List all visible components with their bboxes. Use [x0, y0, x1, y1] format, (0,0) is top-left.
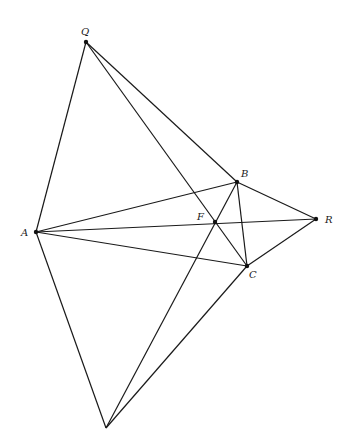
segment-qa	[36, 42, 86, 232]
label-a: A	[20, 227, 28, 238]
point-b	[235, 180, 239, 184]
label-c: C	[249, 269, 257, 280]
segment-br	[237, 182, 316, 219]
segment-ap	[36, 232, 106, 428]
point-f	[213, 220, 217, 224]
geometry-diagram: Q A B C R F	[0, 0, 358, 437]
point-r	[314, 217, 318, 221]
point-q	[84, 40, 88, 44]
label-f: F	[196, 211, 205, 222]
point-c	[245, 264, 249, 268]
segment-bp	[106, 182, 237, 428]
label-q: Q	[81, 26, 89, 37]
label-b: B	[240, 168, 248, 179]
point-labels: Q A B C R F	[20, 26, 333, 280]
segment-cp	[106, 266, 247, 428]
segments	[36, 42, 316, 428]
label-r: R	[324, 214, 333, 225]
points	[34, 40, 318, 268]
segment-qb	[86, 42, 237, 182]
segment-cr	[247, 219, 316, 266]
point-a	[34, 230, 38, 234]
segment-qc	[86, 42, 247, 266]
segment-ac	[36, 232, 247, 266]
